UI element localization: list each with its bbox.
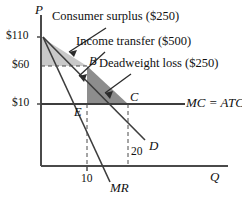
y-axis-label: P [35, 3, 43, 16]
annotation-consumer-surplus: Consumer surplus ($250) [52, 10, 179, 23]
quantity-tick-10: 10 [81, 173, 93, 185]
quantity-tick-20: 20 [131, 146, 143, 158]
point-label-c: C [130, 91, 138, 104]
point-label-e: E [74, 106, 82, 119]
annotation-income-transfer: Income transfer ($500) [76, 35, 191, 48]
curve-label-mc-atc: MC = ATC [186, 96, 242, 109]
economics-monopoly-diagram: P Q $110 $60 $10 10 20 B C E MC = ATC D … [0, 0, 242, 203]
deadweight-loss-region [87, 66, 128, 104]
curve-label-mr: MR [110, 181, 129, 194]
price-tick-10: $10 [12, 97, 29, 109]
point-label-b: B [89, 55, 97, 68]
curve-label-demand: D [149, 139, 158, 152]
income-transfer-region [41, 66, 87, 104]
x-axis-label: Q [210, 170, 219, 183]
price-tick-60: $60 [12, 59, 29, 71]
price-tick-110: $110 [6, 30, 29, 42]
annotation-deadweight-loss: Deadweight loss ($250) [99, 57, 218, 70]
